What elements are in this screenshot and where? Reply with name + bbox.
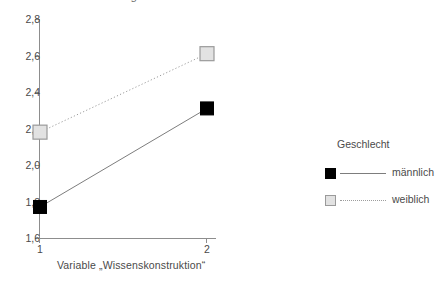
x-axis-title: Variable „Wissenskonstruktion“ — [57, 259, 205, 271]
chart-container: Wechselwirkung zwischen Wissenskonstrukt… — [0, 0, 442, 282]
data-point-marker — [34, 200, 47, 213]
legend-label-maennlich: männlich — [392, 166, 434, 178]
legend-item-maennlich[interactable]: männlich — [320, 168, 442, 182]
data-point-marker — [33, 125, 47, 139]
legend-label-weiblich: weiblich — [392, 193, 429, 205]
data-point-marker — [201, 102, 214, 115]
legend-line-solid-icon — [340, 173, 386, 174]
legend-item-weiblich[interactable]: weiblich — [320, 195, 442, 209]
series-line-männlich — [40, 108, 207, 207]
series-line-weiblich — [40, 54, 207, 132]
legend-swatch-square-hollow-icon — [325, 195, 336, 206]
legend-swatch-square-filled-icon — [325, 168, 336, 179]
legend-line-dotted-icon — [340, 200, 386, 201]
legend-title: Geschlecht — [337, 138, 390, 150]
data-point-marker — [200, 47, 214, 61]
